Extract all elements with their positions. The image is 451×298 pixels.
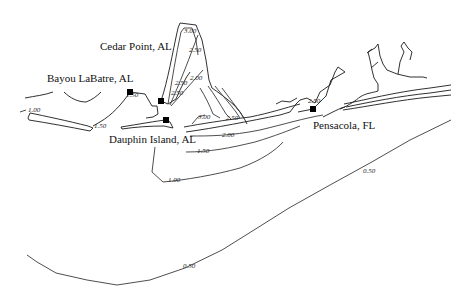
place-label-dauphin-island: Dauphin Island, AL [109,133,196,145]
contour-label: 1.00 [28,106,41,114]
bayou-labatre-station-marker [127,89,133,95]
coast-east-lower [323,107,345,117]
coast-east-peninsula [398,42,412,74]
contour-label: 3.00 [183,27,197,35]
contour-label: 2.50 [189,46,202,54]
contour-1-00-west [20,110,26,112]
contour-label: 1.50 [197,147,210,155]
mobile-bay-inner [161,72,190,104]
contour-label: 2.00 [222,131,235,139]
contour-lines-group [20,28,451,285]
contour-label: 0.50 [363,167,376,175]
coast-east-b [367,49,378,68]
pensacola-bay-inlet [276,98,297,104]
contour-label: 1.00 [168,176,181,184]
contour-label: 0.50 [183,262,196,270]
contour-0-50-gulf [27,120,451,285]
contour-label: 2.50 [175,79,188,87]
cedar-point-station-marker [158,98,164,104]
contour-label: 3.00 [197,113,211,121]
pensacola-bay-shore [290,67,345,112]
contour-labels-group: 3.00 2.50 2.00 2.50 2.50 1.00 1.50 1.50 … [28,27,376,270]
contour-label: 2.00 [190,74,203,82]
coastline-west-mainland-a [25,92,53,98]
coastline-west-mainland-b [64,92,101,102]
dauphin-island-station-marker [163,117,169,123]
contour-label: 2.50 [308,97,321,105]
pensacola-station-marker [310,106,316,112]
barrier-island-west [28,113,93,131]
contour-label: 2.50 [226,114,239,122]
contour-label: 2.50 [171,89,184,97]
place-label-cedar-point: Cedar Point, AL [100,40,172,52]
place-label-bayou-labatre: Bayou LaBatre, AL [47,72,134,84]
contour-map: 3.00 2.50 2.00 2.50 2.50 1.00 1.50 1.50 … [0,0,451,298]
contour-label: 1.50 [94,122,107,130]
coastline-bayou-link [93,92,130,126]
place-label-pensacola: Pensacola, FL [313,119,376,131]
